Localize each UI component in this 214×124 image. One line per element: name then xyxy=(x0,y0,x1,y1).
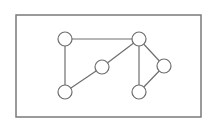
node-C xyxy=(95,60,109,74)
node-B xyxy=(132,32,146,46)
node-layer xyxy=(58,32,171,99)
graph-diagram xyxy=(0,0,214,124)
node-F xyxy=(132,85,146,99)
node-A xyxy=(58,32,72,46)
node-E xyxy=(58,85,72,99)
edge-layer xyxy=(65,39,164,92)
node-D xyxy=(157,59,171,73)
